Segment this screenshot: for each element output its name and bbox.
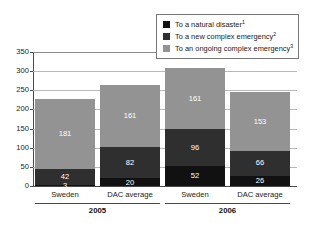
legend-footnote-natural-disaster: 1 bbox=[242, 19, 245, 25]
bar-value-label: 82 bbox=[126, 159, 134, 167]
bar-2005-dac-average[interactable]: 2082161 bbox=[100, 85, 160, 186]
legend-footnote-new-complex-emergency: 2 bbox=[273, 31, 276, 37]
chart-legend: To a natural disaster1 To a new complex … bbox=[156, 14, 299, 59]
legend-label-natural-disaster: To a natural disaster1 bbox=[175, 20, 245, 29]
bar-value-label: 26 bbox=[256, 177, 264, 185]
legend-label-ongoing-complex-emergency: To an ongoing complex emergency3 bbox=[175, 44, 293, 53]
x-label-2005-dac-average: DAC average bbox=[100, 189, 160, 200]
legend-text-natural-disaster: To a natural disaster bbox=[175, 20, 242, 29]
bar-segment: 161 bbox=[165, 68, 225, 130]
bar-value-label: 153 bbox=[254, 118, 267, 126]
group-rule-2006 bbox=[165, 203, 290, 204]
legend-text-ongoing-complex-emergency: To an ongoing complex emergency bbox=[175, 44, 290, 53]
bar-segment: 82 bbox=[100, 147, 160, 178]
y-tick-label-50: 50 bbox=[21, 163, 29, 171]
y-tick-label-100: 100 bbox=[16, 144, 29, 152]
bar-value-label: 181 bbox=[59, 130, 72, 138]
bar-segment: 52 bbox=[165, 166, 225, 186]
y-tick-label-300: 300 bbox=[16, 67, 29, 75]
legend-swatch-ongoing-complex-emergency bbox=[163, 45, 170, 52]
bar-value-label: 20 bbox=[126, 179, 134, 187]
group-label-2005: 2005 bbox=[35, 206, 160, 216]
plot-area: 050100150200250300350 342181208216152961… bbox=[33, 52, 297, 186]
legend-footnote-ongoing-complex-emergency: 3 bbox=[290, 43, 293, 49]
y-tick-label-350: 350 bbox=[16, 48, 29, 56]
bar-segment: 3 bbox=[35, 185, 95, 186]
bar-value-label: 66 bbox=[256, 159, 264, 167]
bar-value-label: 161 bbox=[189, 95, 202, 103]
legend-item-natural-disaster[interactable]: To a natural disaster1 bbox=[163, 19, 293, 30]
legend-swatch-natural-disaster bbox=[163, 21, 170, 28]
bar-segment: 161 bbox=[100, 85, 160, 147]
bar-value-label: 161 bbox=[124, 112, 137, 120]
legend-item-ongoing-complex-emergency[interactable]: To an ongoing complex emergency3 bbox=[163, 43, 293, 54]
y-tick-label-200: 200 bbox=[16, 105, 29, 113]
bar-value-label: 3 bbox=[63, 182, 67, 190]
gridline-0 bbox=[33, 186, 297, 187]
y-tick-mark-0 bbox=[30, 186, 33, 187]
legend-item-new-complex-emergency[interactable]: To a new complex emergency2 bbox=[163, 31, 293, 42]
bar-2006-dac-average[interactable]: 2666153 bbox=[230, 92, 290, 186]
bar-segment: 66 bbox=[230, 151, 290, 176]
y-tick-label-150: 150 bbox=[16, 125, 29, 133]
legend-text-new-complex-emergency: To a new complex emergency bbox=[175, 32, 273, 41]
x-axis-category-labels: SwedenDAC averageSwedenDAC average bbox=[33, 189, 297, 202]
group-rule-2005 bbox=[35, 203, 160, 204]
bar-2005-sweden[interactable]: 342181 bbox=[35, 99, 95, 186]
group-label-2006: 2006 bbox=[165, 206, 290, 216]
bar-segment: 181 bbox=[35, 99, 95, 168]
y-tick-label-0: 0 bbox=[25, 182, 29, 190]
bar-value-label: 42 bbox=[61, 173, 69, 181]
x-label-2005-sweden: Sweden bbox=[35, 189, 95, 200]
stacked-bar-chart: To a natural disaster1 To a new complex … bbox=[0, 0, 320, 232]
bar-segment: 20 bbox=[100, 178, 160, 186]
x-label-2006-sweden: Sweden bbox=[165, 189, 225, 200]
x-label-2006-dac-average: DAC average bbox=[230, 189, 290, 200]
bar-2006-sweden[interactable]: 5296161 bbox=[165, 68, 225, 186]
bars-layer: 342181208216152961612666153 bbox=[33, 52, 297, 186]
bar-segment: 153 bbox=[230, 92, 290, 151]
bar-segment: 96 bbox=[165, 129, 225, 166]
legend-swatch-new-complex-emergency bbox=[163, 33, 170, 40]
bar-segment: 26 bbox=[230, 176, 290, 186]
y-tick-label-250: 250 bbox=[16, 86, 29, 94]
x-axis-group-labels: 20052006 bbox=[33, 203, 297, 227]
bar-value-label: 52 bbox=[191, 172, 199, 180]
bar-value-label: 96 bbox=[191, 144, 199, 152]
legend-label-new-complex-emergency: To a new complex emergency2 bbox=[175, 32, 276, 41]
